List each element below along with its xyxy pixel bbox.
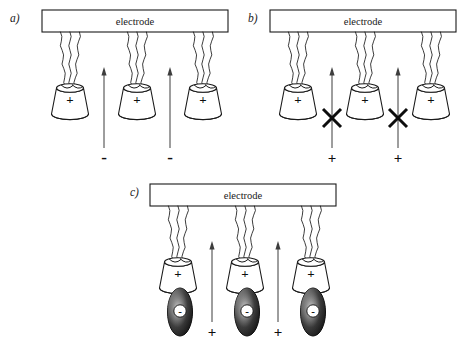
transport-arrow-head [275,241,280,250]
transport-arrow-head [395,67,400,76]
panel-c: c)electrode+++---++ [130,184,336,340]
transport-arrow-head [167,67,172,76]
host-charge-label: + [361,92,368,107]
alkyl-chain [207,32,214,87]
free-ion-plus: + [394,150,403,166]
alkyl-chain [288,32,293,87]
host-charge-label: + [427,92,434,107]
free-ion-minus: - [101,148,107,167]
alkyl-chain [297,32,299,87]
transport-arrow-head [101,67,106,76]
host-charge-label: + [241,266,248,281]
alkyl-chain [301,206,306,261]
alkyl-chain [127,32,132,87]
alkyl-chain [141,32,148,87]
alkyl-chain [235,206,240,261]
electrode-label: electrode [344,16,383,27]
host-charge-label: + [66,92,73,107]
panel-label-a: a) [10,12,20,25]
free-ion-plus: + [274,324,283,340]
alkyl-chain [60,32,65,87]
panel-b: b)electrode+++++ [248,10,456,166]
alkyl-chain [168,206,173,261]
transport-arrow-head [209,241,214,250]
alkyl-chain [364,32,366,87]
alkyl-chain [435,32,442,87]
panel-label-c: c) [130,186,139,199]
alkyl-chain [193,32,198,87]
alkyl-chain [69,32,71,87]
guest-charge-label: - [178,305,182,317]
alkyl-chain [369,32,376,87]
host-charge-label: + [294,92,301,107]
alkyl-chain [310,206,312,261]
alkyl-chain [74,32,81,87]
alkyl-chain [182,206,189,261]
alkyl-chain [430,32,432,87]
electrode-label: electrode [116,16,155,27]
alkyl-chain [177,206,179,261]
diagram-canvas: a)electrode+++--b)electrode+++++c)electr… [0,0,475,358]
panels-layer: a)electrode+++--b)electrode+++++c)electr… [10,10,456,340]
free-ion-minus: - [167,148,173,167]
host-charge-label: + [199,92,206,107]
transport-arrow-head [329,67,334,76]
host-charge-label: + [133,92,140,107]
electrode-label: electrode [224,190,263,201]
alkyl-chain [355,32,360,87]
host-charge-label: + [174,266,181,281]
host-charge-label: + [307,266,314,281]
alkyl-chain [302,32,309,87]
free-ion-plus: + [328,150,337,166]
alkyl-chain [249,206,256,261]
free-ion-plus: + [208,324,217,340]
panel-label-b: b) [248,12,258,25]
alkyl-chain [315,206,322,261]
alkyl-chain [202,32,204,87]
alkyl-chain [244,206,246,261]
guest-charge-label: - [245,305,249,317]
guest-charge-label: - [311,305,315,317]
panel-a: a)electrode+++-- [10,10,228,167]
alkyl-chain [421,32,426,87]
figure-root: a)electrode+++--b)electrode+++++c)electr… [0,0,475,358]
alkyl-chain [136,32,138,87]
